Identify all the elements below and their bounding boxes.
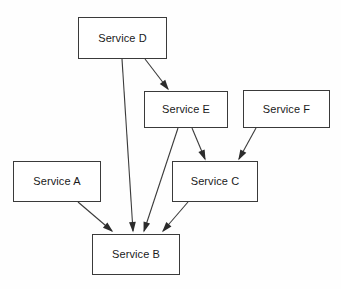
node-label: Service C bbox=[191, 176, 240, 187]
edges-group bbox=[78, 59, 256, 232]
node-service-a[interactable]: Service A bbox=[13, 161, 101, 202]
node-service-c[interactable]: Service C bbox=[172, 161, 258, 202]
node-label: Service F bbox=[263, 104, 310, 115]
arrowhead-icon bbox=[160, 80, 169, 90]
edge-d-e bbox=[145, 59, 169, 90]
edge-line bbox=[122, 59, 133, 231]
node-label: Service E bbox=[162, 104, 210, 115]
node-service-f[interactable]: Service F bbox=[243, 90, 330, 128]
node-service-e[interactable]: Service E bbox=[144, 91, 228, 128]
edge-a-b bbox=[78, 202, 113, 232]
edge-d-b bbox=[122, 59, 136, 232]
arrowhead-icon bbox=[238, 149, 246, 160]
node-label: Service D bbox=[98, 33, 147, 44]
service-dependency-diagram: Service AService BService CService DServ… bbox=[0, 0, 341, 289]
node-service-b[interactable]: Service B bbox=[92, 234, 180, 275]
arrowhead-icon bbox=[129, 222, 136, 233]
edge-f-c bbox=[238, 128, 256, 160]
node-service-d[interactable]: Service D bbox=[78, 17, 167, 59]
arrowhead-icon bbox=[198, 149, 205, 160]
node-label: Service A bbox=[33, 176, 80, 187]
node-label: Service B bbox=[112, 249, 160, 260]
edge-e-c bbox=[192, 128, 206, 160]
edge-c-b bbox=[162, 202, 188, 232]
arrowhead-icon bbox=[144, 221, 151, 232]
